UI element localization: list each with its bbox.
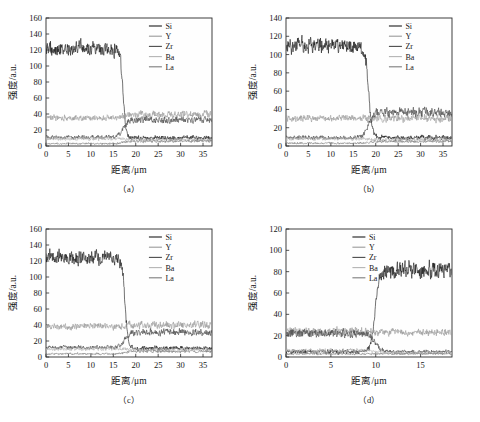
legend-label-ba: Ba [405,53,414,62]
y-tick-label: 140 [29,240,42,250]
legend-label-y: Y [165,243,171,252]
x-tick-label: 20 [371,149,380,159]
y-tick-label: 80 [274,267,283,277]
y-tick-label: 40 [34,109,43,119]
x-tick-label: 0 [44,149,48,159]
y-tick-label: 100 [269,50,282,60]
x-tick-label: 0 [284,360,288,370]
y-tick-label: 40 [274,104,283,114]
x-tick-label: 0 [284,149,288,159]
x-axis-title: 距离/μm [111,375,147,386]
y-tick-label: 0 [38,141,42,151]
panel-caption: （c） [118,395,140,405]
y-tick-label: 80 [34,288,43,298]
x-tick-label: 25 [154,360,163,370]
y-axis-ticks: 020406080100120140160 [29,224,49,362]
legend-label-si: Si [369,233,376,242]
y-axis-title: 强度/a.u. [247,64,258,100]
y-tick-label: 60 [274,288,283,298]
y-axis-title: 强度/a.u. [7,64,18,100]
legend-label-y: Y [405,32,411,41]
y-tick-label: 100 [29,61,42,71]
y-tick-label: 140 [29,29,42,39]
legend-label-ba: Ba [165,264,174,273]
y-tick-label: 160 [29,13,42,23]
legend-label-ba: Ba [165,53,174,62]
x-tick-label: 5 [66,360,70,370]
legend-label-si: Si [165,233,172,242]
x-axis-title: 距离/μm [111,164,147,175]
y-tick-label: 0 [278,141,282,151]
chart-panel-b: 02040608010012014005101520253035距离/μm强度/… [240,0,480,211]
y-tick-label: 120 [29,45,42,55]
x-tick-label: 15 [349,149,358,159]
y-tick-label: 20 [274,331,283,341]
panel-caption: （a） [118,184,140,194]
y-tick-label: 120 [269,224,282,234]
x-tick-label: 25 [394,149,403,159]
x-tick-label: 25 [154,149,163,159]
y-tick-label: 120 [269,31,282,41]
x-tick-label: 10 [327,149,336,159]
y-axis-ticks: 020406080100120140160 [29,13,49,151]
chart-panel-a: 02040608010012014016005101520253035距离/μm… [0,0,240,211]
y-tick-label: 80 [274,68,283,78]
y-tick-label: 0 [278,352,282,362]
x-tick-label: 10 [371,360,380,370]
y-tick-label: 60 [34,93,43,103]
x-tick-label: 35 [199,149,208,159]
y-tick-label: 100 [269,245,282,255]
x-tick-label: 5 [66,149,70,159]
y-tick-label: 0 [38,352,42,362]
chart-panel-d: 020406080100120051015距离/μm强度/a.u.（d）SiYZ… [240,211,480,422]
y-tick-label: 20 [274,123,283,133]
legend-label-la: La [369,274,378,283]
legend-label-la: La [165,63,174,72]
x-tick-label: 30 [176,360,185,370]
chart-panel-c: 02040608010012014016005101520253035距离/μm… [0,211,240,422]
legend-label-y: Y [165,32,171,41]
x-tick-label: 15 [416,360,425,370]
legend-label-si: Si [165,22,172,31]
y-tick-label: 40 [274,309,283,319]
x-tick-label: 5 [329,360,333,370]
y-tick-label: 20 [34,125,43,135]
y-tick-label: 140 [269,13,282,23]
x-tick-label: 5 [306,149,310,159]
x-tick-label: 15 [109,360,118,370]
plot-frame [46,18,212,146]
legend-label-la: La [165,274,174,283]
legend-label-si: Si [405,22,412,31]
y-axis-title: 强度/a.u. [7,275,18,311]
legend-label-zr: Zr [405,42,413,51]
y-tick-label: 20 [34,336,43,346]
legend-label-zr: Zr [369,253,377,262]
legend-label-y: Y [369,243,375,252]
panel-caption: （b） [358,184,380,194]
x-tick-label: 30 [416,149,425,159]
x-tick-label: 15 [109,149,118,159]
figure-panel-grid: 02040608010012014016005101520253035距离/μm… [0,0,480,422]
y-tick-label: 60 [274,86,283,96]
x-tick-label: 35 [199,360,208,370]
x-tick-label: 30 [176,149,185,159]
y-tick-label: 100 [29,272,42,282]
y-tick-label: 80 [34,77,43,87]
legend-label-zr: Zr [165,42,173,51]
y-tick-label: 160 [29,224,42,234]
x-tick-label: 20 [131,149,140,159]
legend-label-ba: Ba [369,264,378,273]
x-tick-label: 35 [439,149,448,159]
x-axis-title: 距离/μm [351,375,387,386]
x-axis-title: 距离/μm [351,164,387,175]
x-tick-label: 10 [87,149,96,159]
y-tick-label: 40 [34,320,43,330]
x-tick-label: 20 [131,360,140,370]
y-tick-label: 60 [34,304,43,314]
plot-frame [46,229,212,357]
x-tick-label: 0 [44,360,48,370]
y-tick-label: 120 [29,256,42,266]
x-tick-label: 10 [87,360,96,370]
legend-label-la: La [405,63,414,72]
y-axis-title: 强度/a.u. [247,275,258,311]
